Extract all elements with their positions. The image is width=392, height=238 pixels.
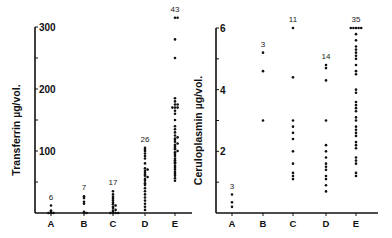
sample-count: 17 [109,178,118,187]
data-point [176,136,179,139]
data-point [355,54,358,57]
data-point [50,204,53,207]
data-point [112,196,115,199]
data-point [144,196,147,199]
data-point [355,110,358,113]
data-point [355,144,358,147]
data-point [144,209,147,212]
data-point [114,209,117,212]
data-point [355,73,358,76]
category-label: A [229,218,236,229]
data-point [352,27,355,30]
data-point [144,202,147,205]
data-point [109,212,112,215]
data-point [174,144,177,147]
data-point [355,104,358,107]
y-axis-label: Transferrin µg/vol. [10,84,22,175]
category-label: C [290,218,297,229]
data-point [144,187,147,190]
data-point [355,101,358,104]
sample-count: 14 [322,52,331,61]
sample-count: 35 [352,15,361,24]
data-point [174,171,177,174]
data-point [146,168,149,171]
category-label: A [48,218,55,229]
data-point [144,206,147,209]
category-label: B [260,218,267,229]
data-point [174,103,177,106]
data-point [292,119,295,122]
data-point [292,150,295,153]
data-point [355,162,358,165]
data-point [174,100,177,103]
category-label: B [81,218,88,229]
data-point [325,79,328,82]
data-point [144,162,147,165]
data-point [325,190,328,193]
data-point [52,212,55,215]
data-point [325,144,328,147]
data-point [176,16,179,19]
data-point [174,119,177,122]
data-point [144,190,147,193]
data-point [325,119,328,122]
data-point [355,119,358,122]
data-point [325,175,328,178]
dot-plot-figure: 100200300Transferrin µg/vol.A6B7C17D26E4… [0,0,392,238]
data-point [355,141,358,144]
sample-count: 3 [230,182,235,191]
data-point [355,58,358,61]
y-tick-label: 200 [39,84,56,95]
sample-count: 11 [289,15,298,24]
data-point [325,150,328,153]
data-point [292,138,295,141]
y-tick-label: 4 [220,85,226,96]
data-point [144,157,147,160]
data-point [355,147,358,150]
data-point [292,125,295,128]
data-point [325,178,328,181]
data-point [325,162,328,165]
data-point [144,199,147,202]
data-point [360,27,363,30]
data-point [262,119,265,122]
data-point [355,51,358,54]
data-point [174,177,177,180]
data-point [355,64,358,67]
sample-count: 6 [49,193,54,202]
data-point [174,179,177,182]
data-point [355,156,358,159]
data-point [174,128,177,131]
category-label: D [142,218,149,229]
data-point [292,178,295,181]
data-point [231,193,234,196]
data-point [355,70,358,73]
category-label: E [353,218,359,229]
data-point [292,132,295,135]
data-point [355,116,358,119]
data-point [325,64,328,67]
data-point [112,190,115,193]
data-point [174,131,177,134]
data-point [355,128,358,131]
data-point [85,212,88,215]
data-point [355,175,358,178]
data-point [144,152,147,155]
data-point [144,147,147,150]
category-label: D [323,218,330,229]
y-tick-label: 2 [220,146,226,157]
data-point [355,159,358,162]
sample-count: 3 [261,40,266,49]
data-point [355,135,358,138]
data-point [355,48,358,51]
data-point [83,195,86,198]
y-axis-label: Ceruloplasmin µg/vol. [192,76,204,185]
data-point [355,27,358,30]
data-point [231,206,234,209]
data-point [146,176,149,179]
data-point [355,39,358,42]
data-point [350,27,353,30]
data-point [325,165,328,168]
data-point [357,27,360,30]
data-point [292,162,295,165]
